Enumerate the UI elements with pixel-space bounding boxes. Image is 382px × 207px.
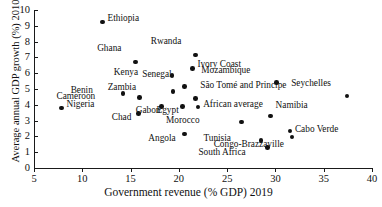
x-tick-label: 15 [116,173,146,185]
y-tick-mark [34,152,38,153]
data-point-label: Seychelles [291,78,331,88]
data-point-label: Chad [112,112,132,122]
y-tick-mark [34,89,38,90]
data-point-label: Ghana [97,43,121,53]
x-tick-mark [131,168,132,172]
data-point [121,91,126,96]
x-tick-mark [82,168,83,172]
y-tick-mark [34,57,38,58]
y-tick-mark [34,10,38,11]
x-tick-label: 20 [164,173,194,185]
data-point-label: Nigeria [67,99,95,109]
data-point-label: Tunisia [203,133,231,143]
x-axis-label: Government revenue (% GDP) 2019 [0,186,377,198]
data-point [190,66,195,71]
data-point-label: Mozambique [201,65,250,75]
y-tick-mark [34,121,38,122]
x-axis-line [34,168,372,169]
y-tick-mark [34,168,38,169]
data-point [100,20,105,25]
x-tick-mark [227,168,228,172]
data-point [268,114,273,119]
data-point-label: Rwanda [151,36,181,46]
data-point-label: Senegal [142,69,171,79]
x-tick-label: 25 [212,173,242,185]
data-point [259,138,264,143]
x-tick-label: 5 [19,173,49,185]
x-tick-label: 35 [309,173,339,185]
data-point-label: Ethiopia [108,13,140,23]
y-tick-mark [34,26,38,27]
data-point-label: Cabo Verde [295,124,338,134]
data-point [193,96,198,101]
data-point [171,89,176,94]
x-tick-label: 10 [67,173,97,185]
data-point [136,111,141,116]
data-point [274,80,279,85]
data-point [137,95,142,100]
data-point [265,145,270,150]
x-tick-mark [179,168,180,172]
data-point [133,60,138,65]
x-tick-label: 40 [357,173,382,185]
x-tick-mark [372,168,373,172]
data-point-label: South Africa [198,147,245,157]
y-axis-label: Average annual GDP growth (%) 2010–19 [10,0,21,163]
data-point [180,104,185,109]
x-tick-mark [275,168,276,172]
x-tick-mark [324,168,325,172]
data-point-label: Morocco [166,115,200,125]
data-point-label: Kenya [114,67,138,77]
data-point-label: Angola [148,133,175,143]
y-tick-mark [34,73,38,74]
data-point [193,53,198,58]
y-tick-mark [34,136,38,137]
y-tick-mark [34,105,38,106]
x-tick-label: 30 [260,173,290,185]
data-point-label: African average [203,99,263,109]
data-point-label: Namibia [276,100,308,110]
y-tick-label: 0 [8,163,30,173]
data-point [182,84,187,89]
y-tick-mark [34,42,38,43]
data-point [59,106,64,111]
data-point-label: Egypt [157,105,179,115]
